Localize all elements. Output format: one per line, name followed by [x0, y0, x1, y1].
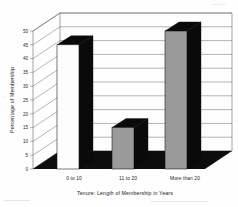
y-tick-25: 25 — [23, 98, 29, 103]
y-tick-30: 30 — [23, 84, 29, 89]
y-axis-ticks — [30, 31, 33, 169]
x-category-0: 0 to 10 — [66, 176, 82, 181]
bar-0-to-10[interactable] — [57, 36, 93, 169]
y-tick-10: 10 — [23, 139, 29, 144]
y-tick-40: 40 — [23, 56, 29, 61]
x-category-1: 11 to 20 — [119, 176, 137, 181]
x-axis-title: Tenure: Length of Membership in Years — [77, 190, 173, 196]
bar-more-than-20[interactable] — [165, 22, 201, 169]
chart-canvas: 50 45 40 35 30 25 20 15 10 5 0 Percentag… — [0, 0, 238, 207]
y-axis-title: Percentage of Membership — [9, 67, 15, 133]
y-tick-50: 50 — [23, 29, 29, 34]
bar-chart-figure: 50 45 40 35 30 25 20 15 10 5 0 Percentag… — [0, 0, 238, 207]
y-tick-45: 45 — [23, 43, 29, 48]
y-tick-0: 0 — [25, 167, 28, 172]
x-category-2: More than 20 — [170, 176, 200, 181]
y-tick-35: 35 — [23, 70, 29, 75]
x-axis-category-labels: 0 to 10 11 to 20 More than 20 — [66, 176, 200, 181]
y-tick-20: 20 — [23, 112, 29, 117]
y-tick-15: 15 — [23, 125, 29, 130]
y-axis-tick-labels: 50 45 40 35 30 25 20 15 10 5 0 — [23, 29, 29, 172]
bar-11-to-20[interactable] — [112, 119, 148, 169]
y-tick-5: 5 — [25, 153, 28, 158]
